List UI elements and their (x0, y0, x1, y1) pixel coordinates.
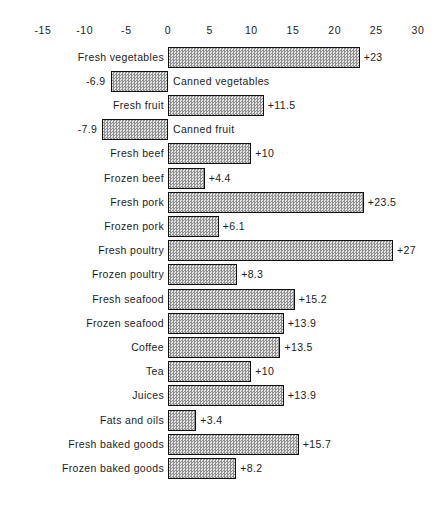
bar-row: Frozen seafood+13.9 (0, 312, 446, 336)
bar (168, 385, 284, 406)
x-axis: -15-10-5051015202530 (0, 0, 446, 46)
value-label: +15.7 (303, 438, 331, 450)
bar-row: Fresh vegetables+23 (0, 46, 446, 70)
value-label: +15.2 (299, 293, 327, 305)
x-tick-label: -15 (35, 24, 52, 36)
x-tick-label: -5 (121, 24, 132, 36)
bar (168, 47, 360, 68)
value-label: +8.2 (240, 462, 262, 474)
value-label: +27 (397, 244, 416, 256)
bar (168, 313, 284, 334)
bar (168, 434, 299, 455)
category-label: Tea (146, 365, 164, 377)
value-label: +10 (255, 365, 274, 377)
bar-row: Fresh fruit+11.5 (0, 94, 446, 118)
value-label: +13.9 (288, 389, 316, 401)
bar-row: Fats and oils+3.4 (0, 409, 446, 433)
x-tick-label: 25 (370, 24, 383, 36)
bar (168, 410, 196, 431)
bar-row: Fresh beef+10 (0, 143, 446, 167)
category-label: Frozen poultry (92, 268, 164, 280)
bar (168, 361, 251, 382)
bar (168, 458, 236, 479)
bar (168, 168, 205, 189)
category-label: Canned vegetables (173, 75, 269, 87)
x-tick-label: 5 (206, 24, 212, 36)
bar-row: Fresh poultry+27 (0, 240, 446, 264)
bar (168, 264, 237, 285)
value-label: +6.1 (223, 220, 245, 232)
x-tick-label: 30 (412, 24, 425, 36)
category-label: Frozen pork (104, 220, 164, 232)
bar (168, 143, 251, 164)
bar-chart: -15-10-5051015202530 Fresh vegetables+23… (0, 0, 446, 507)
category-label: Fresh fruit (113, 99, 164, 111)
category-label: Fats and oils (100, 414, 164, 426)
value-label: +11.5 (268, 99, 296, 111)
bar-row: Frozen baked goods+8.2 (0, 457, 446, 481)
bar-row: Frozen poultry+8.3 (0, 264, 446, 288)
x-tick-label: 10 (245, 24, 258, 36)
bar (168, 192, 364, 213)
bar-row: Juices+13.9 (0, 385, 446, 409)
value-label: +13.9 (288, 317, 316, 329)
value-label: +4.4 (209, 172, 231, 184)
bar (168, 240, 393, 261)
bar (168, 337, 280, 358)
bar-row: Canned fruit-7.9 (0, 119, 446, 143)
category-label: Fresh seafood (92, 293, 164, 305)
value-label: +10 (255, 147, 274, 159)
category-label: Canned fruit (173, 123, 234, 135)
bar-row: Fresh seafood+15.2 (0, 288, 446, 312)
value-label: +8.3 (241, 268, 263, 280)
value-label: +23 (364, 51, 383, 63)
value-label: -6.9 (86, 75, 106, 87)
value-label: +3.4 (200, 414, 222, 426)
plot-area: Fresh vegetables+23Canned vegetables-6.9… (0, 46, 446, 486)
category-label: Coffee (131, 341, 164, 353)
category-label: Fresh baked goods (68, 438, 164, 450)
bar (102, 119, 168, 140)
x-tick-label: 20 (328, 24, 341, 36)
category-label: Frozen beef (104, 172, 164, 184)
bar (111, 71, 168, 92)
bar (168, 95, 264, 116)
category-label: Fresh poultry (98, 244, 164, 256)
category-label: Frozen seafood (86, 317, 164, 329)
bar-row: Fresh baked goods+15.7 (0, 433, 446, 457)
bar-row: Fresh pork+23.5 (0, 191, 446, 215)
x-tick-label: -10 (76, 24, 93, 36)
value-label: +13.5 (284, 341, 312, 353)
category-label: Fresh vegetables (78, 51, 164, 63)
bar-row: Tea+10 (0, 361, 446, 385)
bar-row: Coffee+13.5 (0, 336, 446, 360)
category-label: Fresh pork (110, 196, 164, 208)
bar-row: Frozen beef+4.4 (0, 167, 446, 191)
value-label: -7.9 (78, 123, 98, 135)
x-tick-label: 15 (287, 24, 300, 36)
category-label: Frozen baked goods (62, 462, 164, 474)
bar-row: Canned vegetables-6.9 (0, 70, 446, 94)
x-tick-label: 0 (165, 24, 171, 36)
bar (168, 216, 219, 237)
category-label: Fresh beef (110, 147, 164, 159)
bar (168, 289, 295, 310)
bar-row: Frozen pork+6.1 (0, 215, 446, 239)
category-label: Juices (132, 389, 164, 401)
value-label: +23.5 (368, 196, 396, 208)
